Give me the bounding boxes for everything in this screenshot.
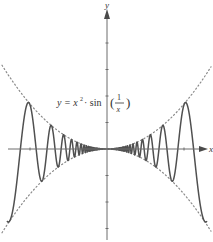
formula-open-paren: ( bbox=[110, 95, 114, 110]
y-axis-label: y bbox=[104, 0, 109, 10]
x-axis-arrow-icon bbox=[199, 146, 208, 152]
function-plot: x y y = x 2 · sin ( 1 x ) bbox=[0, 0, 213, 242]
formula-close-paren: ) bbox=[126, 95, 130, 110]
svg-text:y = x: y = x bbox=[56, 97, 78, 108]
y-axis-arrow-icon bbox=[104, 9, 110, 19]
formula-denominator: x bbox=[116, 105, 121, 114]
formula-annotation: y = x 2 · sin ( 1 x ) bbox=[56, 93, 130, 114]
formula-exponent: 2 bbox=[80, 96, 83, 102]
formula-op: · sin bbox=[84, 97, 102, 108]
formula-lhs: y = x bbox=[56, 97, 78, 108]
formula-numerator: 1 bbox=[117, 93, 121, 102]
x-axis-label: x bbox=[208, 144, 213, 154]
